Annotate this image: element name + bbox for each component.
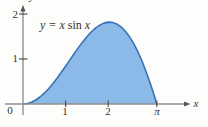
y-axis-arrowhead: [20, 5, 25, 12]
x-axis-label: x: [191, 97, 201, 110]
x-tick-label-2: 2: [101, 105, 115, 118]
equation-function-name: sin: [68, 18, 82, 32]
x-axis-arrowhead: [184, 101, 191, 106]
x-tick-label-1: 1: [58, 105, 72, 118]
equation-label: y = x sin x: [40, 19, 90, 32]
x-tick-label-pi: π: [150, 105, 164, 118]
y-axis-label: y: [27, 0, 37, 3]
y-tick-label-2: 2: [8, 8, 18, 21]
origin-label: 0: [5, 104, 15, 117]
chart-figure: y = x sin x 2 1 0 1 2 π x y: [0, 0, 208, 127]
equation-suffix: x: [82, 18, 90, 32]
equation-prefix: y = x: [40, 18, 68, 32]
y-tick-label-1: 1: [8, 52, 18, 65]
